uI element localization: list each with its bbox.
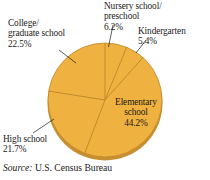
slice-label-college-line2: graduate school — [8, 28, 65, 38]
slice-value-college: 22.5% — [8, 39, 65, 49]
slice-label-nursery-line1: Nursery school/ — [104, 1, 162, 11]
slice-label-college-line1: College/ — [8, 18, 39, 28]
slice-label-elementary-line2: school — [124, 107, 148, 117]
slice-label-elementary-line1: Elementary — [115, 97, 157, 107]
slice-value-elementary: 44.2% — [104, 118, 168, 128]
source-text: U.S. Census Bureau — [35, 162, 112, 173]
slice-label-nursery-line2: preschool — [104, 11, 139, 21]
slice-label-kindergarten-line1: Kindergarten — [138, 26, 186, 36]
slice-label-highschool-line1: High school — [3, 134, 47, 144]
pie-chart-figure: Nursery school/ preschool 6.2% Kindergar… — [0, 0, 210, 180]
slice-label-highschool: High school 21.7% — [3, 134, 47, 155]
slice-label-kindergarten: Kindergarten 5.4% — [138, 26, 186, 47]
slice-label-elementary: Elementary school 44.2% — [104, 97, 168, 128]
source-prefix: Source: — [3, 162, 32, 173]
leader-line-highschool — [33, 119, 54, 133]
slice-label-college: College/ graduate school 22.5% — [8, 18, 65, 49]
slice-value-highschool: 21.7% — [3, 144, 47, 154]
slice-value-kindergarten: 5.4% — [138, 36, 186, 46]
source-note: Source: U.S. Census Bureau — [3, 162, 112, 173]
